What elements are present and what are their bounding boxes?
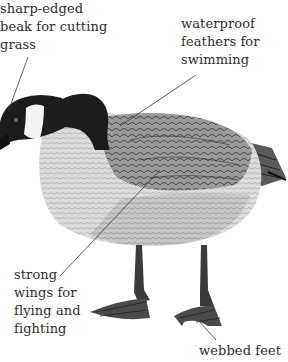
wing: [98, 113, 252, 190]
label-feathers: waterproof feathers for swimming: [181, 15, 288, 69]
right-leg: [174, 245, 222, 326]
label-beak: sharp-edged beak for cutting grass: [0, 0, 130, 54]
label-wings: strong wings for flying and fighting: [14, 266, 114, 338]
cheek-patch: [24, 104, 44, 138]
goose-diagram: sharp-edged beak for cutting grass water…: [0, 0, 288, 362]
label-feet: webbed feet: [199, 342, 288, 360]
